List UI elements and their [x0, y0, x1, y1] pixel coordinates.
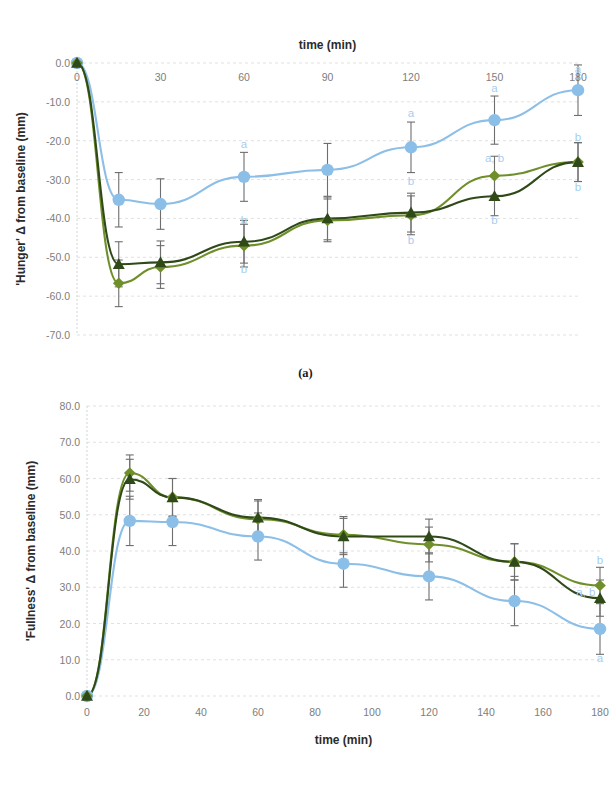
x-tick-label: 60: [252, 706, 264, 718]
significance-label: b: [408, 234, 414, 246]
y-tick-label: 40.0: [60, 545, 81, 557]
y-axis-title: 'Fullness' Δ from baseline (mm): [24, 461, 38, 641]
significance-label: a: [597, 652, 604, 664]
data-point-circle: [488, 114, 500, 126]
data-point-circle: [113, 194, 125, 206]
x-tick-label: 20: [138, 706, 150, 718]
significance-label: b: [241, 263, 247, 275]
figure-container: 0.0-10.0-20.0-30.0-40.0-50.0-60.0-70.003…: [0, 0, 611, 801]
data-point-diamond: [594, 580, 606, 592]
data-point-circle: [508, 595, 520, 607]
y-tick-label: 0.0: [65, 690, 80, 702]
significance-label: a, b: [576, 586, 595, 598]
x-tick-label: 90: [322, 71, 334, 83]
data-point-circle: [252, 530, 264, 542]
y-tick-label: -30.0: [46, 174, 70, 186]
data-point-circle: [321, 164, 333, 176]
y-axis-title: 'Hunger' Δ from baseline (mm): [14, 112, 28, 286]
significance-label: b: [575, 131, 581, 143]
data-point-circle: [337, 557, 349, 569]
y-tick-label: 70.0: [60, 436, 81, 448]
significance-label: a: [491, 82, 498, 94]
y-tick-label: -50.0: [46, 251, 70, 263]
data-point-circle: [405, 141, 417, 153]
y-tick-label: 50.0: [60, 509, 81, 521]
x-tick-label: 120: [402, 71, 420, 83]
significance-label: b: [241, 214, 247, 226]
x-tick-label: 120: [420, 706, 438, 718]
data-point-circle: [423, 570, 435, 582]
x-tick-label: 30: [155, 71, 167, 83]
panel-a-caption: (a): [0, 366, 611, 381]
chart-panel-fullness: 0.010.020.030.040.050.060.070.080.002040…: [0, 390, 611, 801]
significance-label: b: [408, 175, 414, 187]
data-point-circle: [238, 171, 250, 183]
y-tick-label: 30.0: [60, 581, 81, 593]
y-tick-label: 80.0: [60, 400, 81, 412]
significance-label: b: [597, 554, 603, 566]
fullness-chart-svg: 0.010.020.030.040.050.060.070.080.002040…: [0, 390, 611, 801]
x-tick-label: 0: [74, 71, 80, 83]
y-tick-label: -10.0: [46, 96, 70, 108]
x-tick-label: 60: [238, 71, 250, 83]
y-tick-label: 60.0: [60, 473, 81, 485]
y-tick-label: 20.0: [60, 618, 81, 630]
data-point-circle: [124, 515, 136, 527]
y-tick-label: -60.0: [46, 290, 70, 302]
y-tick-label: -70.0: [46, 329, 70, 341]
significance-label: a: [241, 138, 248, 150]
x-tick-label: 160: [534, 706, 552, 718]
x-tick-label: 140: [477, 706, 495, 718]
significance-label: a: [575, 63, 582, 75]
x-tick-label: 80: [309, 706, 321, 718]
data-point-circle: [594, 623, 606, 635]
y-tick-label: 10.0: [60, 654, 81, 666]
data-point-circle: [154, 198, 166, 210]
y-tick-label: -40.0: [46, 212, 70, 224]
data-point-circle: [572, 84, 584, 96]
chart-panel-hunger: 0.0-10.0-20.0-30.0-40.0-50.0-60.0-70.003…: [0, 0, 611, 390]
x-axis-title: time (min): [315, 733, 372, 747]
data-point-circle: [166, 516, 178, 528]
x-axis-title: time (min): [299, 38, 356, 52]
x-tick-label: 0: [84, 706, 90, 718]
hunger-chart-svg: 0.0-10.0-20.0-30.0-40.0-50.0-60.0-70.003…: [0, 0, 611, 390]
x-tick-label: 100: [363, 706, 381, 718]
y-tick-label: -20.0: [46, 135, 70, 147]
x-tick-label: 180: [591, 706, 609, 718]
significance-label: b: [575, 181, 581, 193]
significance-label: a: [408, 107, 415, 119]
significance-label: a, b: [485, 152, 504, 164]
y-tick-label: 0.0: [55, 57, 70, 69]
significance-label: b: [491, 214, 497, 226]
x-tick-label: 40: [195, 706, 207, 718]
